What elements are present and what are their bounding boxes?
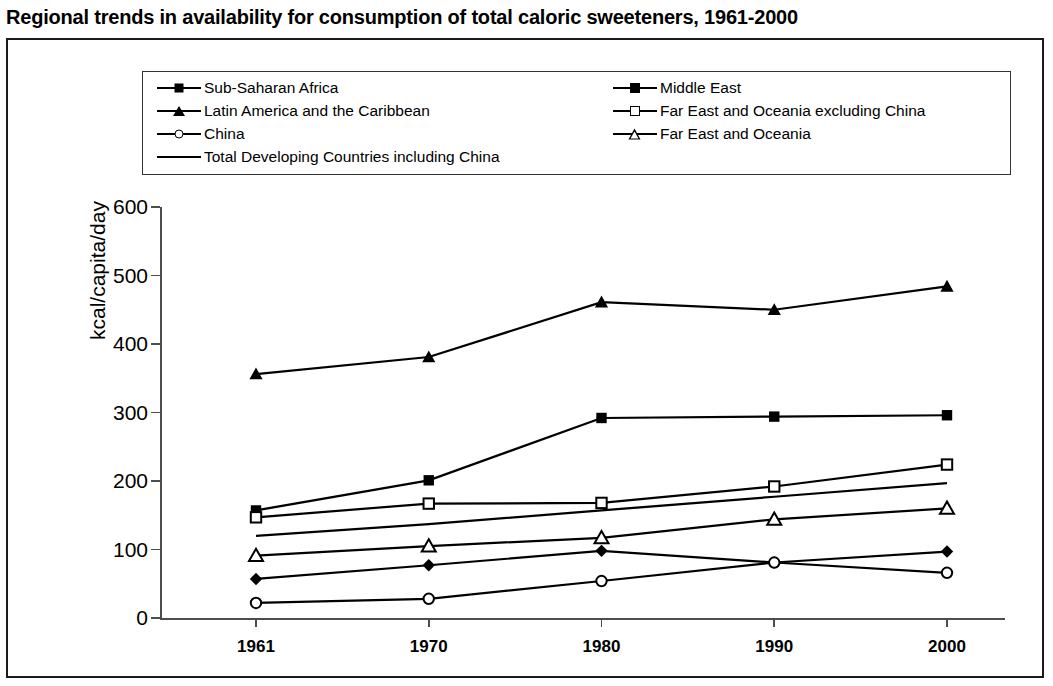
open-square-marker (596, 498, 606, 508)
legend-label: Sub-Saharan Africa (204, 79, 338, 97)
y-axis-tick (151, 275, 160, 277)
series-lines (160, 207, 1005, 620)
legend-item-total-developing-countries-including-china: Total Developing Countries including Chi… (143, 145, 613, 168)
page-title: Regional trends in availability for cons… (6, 2, 1046, 32)
y-axis-tick-label: 500 (68, 265, 148, 286)
filled-triangle-marker (940, 280, 953, 292)
legend-item-middle-east: Middle East (613, 76, 741, 99)
y-axis-tick (151, 412, 160, 414)
legend-label: China (204, 125, 245, 143)
filled-square-marker (596, 413, 606, 423)
x-axis-tick-label: 1970 (384, 637, 474, 657)
legend-item-far-east-and-oceania-excluding-china: Far East and Oceania excluding China (613, 99, 925, 122)
legend-row: China Far East and Oceania (143, 122, 1010, 145)
x-axis-tick (601, 618, 603, 627)
legend-label: Far East and Oceania (660, 125, 811, 143)
series-line (256, 415, 947, 510)
y-axis-tick-label: 400 (68, 333, 148, 354)
filled-diamond-marker (250, 573, 262, 585)
x-axis-tick (773, 618, 775, 627)
x-axis-tick (946, 618, 948, 627)
legend-item-sub-saharan-africa: Sub-Saharan Africa (143, 76, 613, 99)
open-square-icon (613, 102, 657, 120)
filled-diamond-marker (595, 545, 607, 557)
x-axis-tick-label: 1980 (557, 637, 647, 657)
open-circle-marker (942, 568, 952, 578)
y-axis-tick-label: 300 (68, 402, 148, 423)
filled-diamond-marker (423, 559, 435, 571)
y-axis-tick (151, 206, 160, 208)
open-circle-icon (157, 125, 201, 143)
x-axis-tick (428, 618, 430, 627)
y-axis-tick-labels: 0100200300400500600 (68, 207, 148, 620)
x-axis-tick-label: 1990 (729, 637, 819, 657)
legend-label: Middle East (660, 79, 741, 97)
line-icon (157, 148, 201, 166)
legend-label: Latin America and the Caribbean (204, 102, 430, 120)
open-square-marker (769, 481, 779, 491)
y-axis-tick (151, 617, 160, 619)
open-circle-marker (769, 557, 779, 567)
filled-diamond-icon (157, 79, 201, 97)
x-axis-tick (255, 618, 257, 627)
open-square-marker (424, 498, 434, 508)
open-square-marker (942, 459, 952, 469)
open-circle-marker (596, 576, 606, 586)
legend-label: Far East and Oceania excluding China (660, 102, 925, 120)
filled-square-marker (769, 411, 779, 421)
y-axis-tick-label: 600 (68, 196, 148, 217)
y-axis-tick-label: 200 (68, 470, 148, 491)
y-axis-tick-label: 0 (68, 607, 148, 628)
filled-square-marker (424, 475, 434, 485)
x-axis-tick-label: 2000 (902, 637, 992, 657)
x-axis-tick-label: 1961 (211, 637, 301, 657)
legend-label: Total Developing Countries including Chi… (204, 148, 500, 166)
filled-square-marker (942, 410, 952, 420)
filled-diamond-marker (941, 545, 953, 557)
open-triangle-icon (613, 125, 657, 143)
legend-item-latin-america-and-the-caribbean: Latin America and the Caribbean (143, 99, 613, 122)
legend-row: Latin America and the Caribbean Far East… (143, 99, 1010, 122)
y-axis-tick (151, 480, 160, 482)
series-china (251, 557, 952, 608)
open-circle-marker (251, 598, 261, 608)
chart-legend: Sub-Saharan Africa Middle East Latin Ame… (142, 71, 1011, 175)
legend-row: Total Developing Countries including Chi… (143, 145, 1010, 168)
y-axis-tick (151, 343, 160, 345)
legend-item-far-east-and-oceania: Far East and Oceania (613, 122, 811, 145)
chart-frame: Sub-Saharan Africa Middle East Latin Ame… (6, 38, 1044, 678)
filled-triangle-icon (157, 102, 201, 120)
open-square-marker (251, 512, 261, 522)
y-axis-tick (151, 549, 160, 551)
series-latin-america-and-the-caribbean (249, 280, 953, 379)
plot-area: 19611970198019902000 (160, 207, 1005, 620)
filled-square-icon (613, 79, 657, 97)
y-axis-tick-label: 100 (68, 539, 148, 560)
legend-row: Sub-Saharan Africa Middle East (143, 76, 1010, 99)
legend-item-china: China (143, 122, 613, 145)
open-circle-marker (424, 594, 434, 604)
